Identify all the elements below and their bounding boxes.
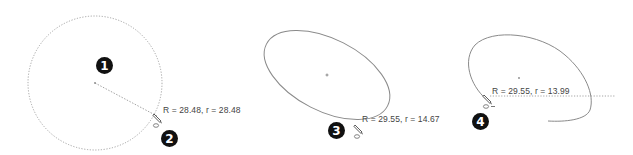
step-marker-4-number: 4 <box>476 116 484 128</box>
sketch-canvas[interactable] <box>0 0 633 155</box>
pencil-ellipse-cursor-icon <box>152 113 166 129</box>
step-1-2-circle-preview <box>28 16 162 150</box>
step-marker-2: 2 <box>161 130 178 147</box>
step-marker-3: 3 <box>328 122 345 139</box>
center-point <box>518 77 520 79</box>
step-marker-4: 4 <box>472 113 489 130</box>
dimension-label-step-3: R = 29.55, r = 14.67 <box>362 114 440 124</box>
dimension-label-step-2: R = 28.48, r = 28.48 <box>163 105 241 115</box>
center-point <box>94 82 96 84</box>
step-marker-1-number: 1 <box>100 60 108 72</box>
center-point-cross <box>326 74 329 77</box>
radius-guide-line <box>95 83 157 116</box>
step-marker-2-number: 2 <box>165 133 173 145</box>
pencil-ellipse-cursor-icon <box>353 124 367 140</box>
dimension-label-step-4: R = 29.55, r = 13.99 <box>492 86 570 96</box>
step-marker-1: 1 <box>96 57 113 74</box>
step-marker-3-number: 3 <box>332 125 340 137</box>
pencil-ellipse-cursor-icon <box>482 94 496 110</box>
